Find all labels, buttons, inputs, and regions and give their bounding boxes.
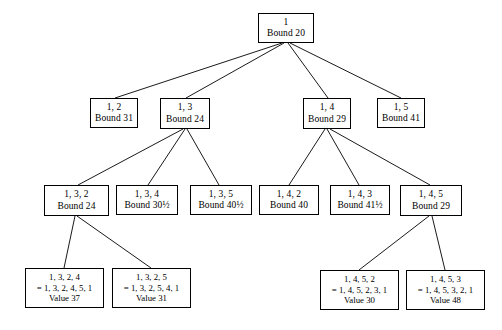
tree-node-n1452: 1, 4, 5, 2= 1, 4, 5, 2, 3, 1Value 30 [320, 270, 399, 310]
tree-node-n1452-line-1: 1, 4, 5, 2 [344, 274, 375, 284]
tree-node-n1453-line-2: = 1, 4, 5, 3, 2, 1 [418, 285, 474, 295]
tree-node-root: 1Bound 20 [258, 13, 314, 43]
tree-node-n143: 1, 4, 3Bound 41½ [330, 185, 390, 215]
tree-edge-root-to-n15 [290, 43, 401, 98]
tree-node-n13-line-1: 1, 3 [178, 102, 193, 113]
tree-node-n132: 1, 3, 2Bound 24 [44, 185, 109, 216]
tree-node-n135-line-1: 1, 3, 5 [209, 189, 233, 200]
tree-node-n1453-line-1: 1, 4, 5, 3 [430, 274, 461, 284]
tree-node-n1324: 1, 3, 2, 4= 1, 3, 2, 4, 5, 1Value 37 [25, 268, 104, 308]
tree-node-n142-line-2: Bound 40 [270, 200, 308, 211]
tree-node-n14: 1, 4Bound 29 [303, 98, 351, 129]
tree-node-n142: 1, 4, 2Bound 40 [259, 185, 319, 215]
branch-and-bound-tree-figure: 1Bound 201, 2Bound 311, 3Bound 241, 4Bou… [0, 0, 502, 330]
tree-node-n1325-line-3: Value 31 [136, 293, 167, 303]
tree-node-n142-line-1: 1, 4, 2 [277, 189, 301, 200]
tree-node-n135-line-2: Bound 40½ [198, 200, 243, 211]
tree-edge-root-to-n13 [186, 43, 284, 98]
tree-edge-n13-to-n134 [148, 129, 185, 185]
tree-node-n1324-line-1: 1, 3, 2, 4 [49, 272, 80, 282]
tree-node-n132-line-2: Bound 24 [57, 201, 95, 212]
tree-node-n145-line-1: 1, 4, 5 [419, 189, 443, 200]
tree-edge-n132-to-n1324 [64, 216, 75, 268]
tree-edge-n13-to-n135 [187, 129, 219, 185]
tree-edge-n14-to-n145 [330, 129, 430, 185]
tree-node-n13: 1, 3Bound 24 [160, 98, 210, 129]
tree-node-n14-line-1: 1, 4 [320, 102, 335, 113]
tree-node-n1324-line-2: = 1, 3, 2, 4, 5, 1 [37, 283, 93, 293]
tree-node-n13-line-2: Bound 24 [166, 114, 204, 125]
tree-edge-n145-to-n1452 [359, 216, 429, 270]
tree-node-n1453: 1, 4, 5, 3= 1, 4, 5, 3, 2, 1Value 48 [406, 270, 485, 310]
tree-node-n12: 1, 2Bound 31 [90, 98, 138, 128]
tree-node-n1325-line-1: 1, 3, 2, 5 [136, 272, 167, 282]
tree-edge-root-to-n12 [115, 43, 282, 98]
tree-node-n12-line-1: 1, 2 [107, 102, 122, 113]
tree-edge-n14-to-n143 [327, 129, 359, 185]
tree-node-n15-line-1: 1, 5 [394, 102, 409, 113]
tree-node-n1324-line-3: Value 37 [49, 293, 80, 303]
tree-node-n1452-line-2: = 1, 4, 5, 2, 3, 1 [332, 285, 388, 295]
tree-node-root-line-2: Bound 20 [267, 28, 305, 39]
tree-node-n145-line-2: Bound 29 [412, 201, 450, 212]
tree-node-n1325-line-2: = 1, 3, 2, 5, 4, 1 [124, 283, 180, 293]
tree-node-n134-line-1: 1, 3, 4 [135, 189, 159, 200]
tree-node-n134: 1, 3, 4Bound 30½ [116, 185, 178, 215]
tree-edge-n13-to-n132 [78, 129, 183, 185]
tree-node-n132-line-1: 1, 3, 2 [64, 189, 88, 200]
tree-node-n143-line-2: Bound 41½ [337, 200, 382, 211]
tree-node-root-line-1: 1 [284, 17, 289, 28]
tree-edge-n145-to-n1453 [432, 216, 445, 270]
tree-edge-n132-to-n1325 [77, 216, 151, 268]
tree-node-n1452-line-3: Value 30 [344, 295, 375, 305]
tree-edge-n14-to-n142 [289, 129, 325, 185]
tree-node-n135: 1, 3, 5Bound 40½ [190, 185, 252, 215]
tree-node-n143-line-1: 1, 4, 3 [348, 189, 372, 200]
tree-node-n15: 1, 5Bound 41 [377, 98, 425, 128]
tree-node-n1325: 1, 3, 2, 5= 1, 3, 2, 5, 4, 1Value 31 [112, 268, 191, 308]
tree-edge-root-to-n14 [288, 43, 328, 98]
tree-node-n134-line-2: Bound 30½ [124, 200, 169, 211]
tree-node-n145: 1, 4, 5Bound 29 [400, 185, 462, 216]
tree-node-n14-line-2: Bound 29 [308, 114, 346, 125]
tree-node-n12-line-2: Bound 31 [95, 113, 133, 124]
tree-node-n15-line-2: Bound 41 [382, 113, 420, 124]
tree-node-n1453-line-3: Value 48 [430, 295, 461, 305]
